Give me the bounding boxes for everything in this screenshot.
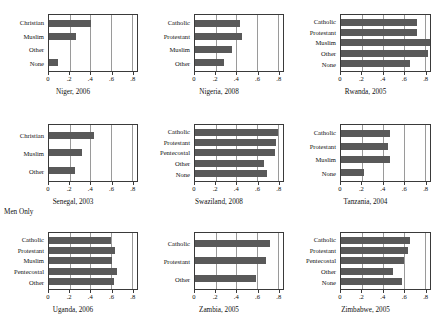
bar bbox=[341, 143, 388, 150]
category-label: None bbox=[292, 170, 338, 177]
bar bbox=[49, 132, 94, 139]
chart-panel: CatholicProtestantPentecostalOtherNone0.… bbox=[292, 218, 439, 328]
x-axis: 0.2.4.6.8 bbox=[48, 182, 138, 198]
chart-panel: CatholicProtestantPentecostalOtherNone0.… bbox=[146, 110, 292, 218]
plot-area bbox=[48, 124, 138, 182]
bar-row bbox=[195, 20, 283, 27]
bar bbox=[195, 170, 267, 177]
bar-row bbox=[341, 19, 430, 26]
x-axis-tick-label: 0 bbox=[46, 293, 49, 300]
bar bbox=[49, 247, 115, 254]
x-axis: 0.2.4.6.8 bbox=[194, 290, 284, 306]
x-axis-tick-label: 0 bbox=[338, 293, 341, 300]
x-axis-tick-label: 0 bbox=[192, 185, 195, 192]
bar-row bbox=[341, 247, 430, 254]
chart-panel: ChristianMuslimOther0.2.4.6.8Senegal, 20… bbox=[0, 110, 146, 218]
bar-row bbox=[195, 129, 283, 136]
bar-row bbox=[49, 237, 137, 244]
plot-area bbox=[48, 232, 138, 290]
chart-panel: CatholicProtestantMuslimOther0.2.4.6.8Ni… bbox=[146, 0, 292, 110]
x-axis: 0.2.4.6.8 bbox=[340, 182, 431, 198]
bar bbox=[341, 19, 417, 26]
panel-inner: CatholicProtestantMuslimNone0.2.4.6.8Tan… bbox=[292, 110, 439, 218]
bar bbox=[195, 46, 232, 53]
x-axis-tick-label: .4 bbox=[88, 185, 93, 192]
category-label: Christian bbox=[0, 19, 46, 26]
category-axis-labels: CatholicProtestantPentecostalOtherNone bbox=[146, 124, 192, 182]
x-axis-tick-label: .8 bbox=[276, 75, 281, 82]
category-label: Catholic bbox=[146, 240, 192, 247]
plot-box bbox=[194, 124, 284, 182]
plot-area bbox=[194, 232, 284, 290]
bar-row bbox=[341, 278, 430, 285]
category-axis-labels: CatholicProtestantOther bbox=[146, 232, 192, 290]
category-label: Muslim bbox=[0, 257, 46, 264]
x-axis: 0.2.4.6.8 bbox=[194, 182, 284, 198]
bar-row bbox=[341, 60, 430, 67]
bar bbox=[195, 240, 270, 247]
plot-area bbox=[194, 124, 284, 182]
panel-title: Zimbabwe, 2005 bbox=[292, 306, 439, 314]
x-axis: 0.2.4.6.8 bbox=[48, 72, 138, 88]
plot-area bbox=[340, 124, 431, 182]
category-axis-labels: CatholicProtestantMuslimNone bbox=[292, 124, 338, 182]
plot-box bbox=[340, 124, 431, 182]
bar bbox=[341, 50, 428, 57]
bar-row bbox=[341, 156, 430, 163]
category-label: Other bbox=[292, 268, 338, 275]
category-label: Protestant bbox=[146, 139, 192, 146]
bar bbox=[49, 33, 76, 40]
category-label: Pentecostal bbox=[146, 149, 192, 156]
bar-series bbox=[341, 15, 430, 71]
panel-title: Uganda, 2006 bbox=[0, 306, 146, 314]
bar bbox=[341, 29, 417, 36]
bar-row bbox=[341, 237, 430, 244]
x-axis-tick-label: .8 bbox=[423, 293, 428, 300]
category-label: Catholic bbox=[292, 236, 338, 243]
panel-inner: CatholicProtestantMuslimOther0.2.4.6.8Ni… bbox=[146, 0, 292, 110]
bar-row bbox=[195, 240, 283, 247]
small-multiples-chart-grid: ChristianMuslimOtherNone0.2.4.6.8Niger, … bbox=[0, 0, 439, 328]
bar-series bbox=[341, 125, 430, 181]
bar bbox=[49, 237, 111, 244]
x-axis: 0.2.4.6.8 bbox=[194, 72, 284, 88]
plot-area bbox=[340, 232, 431, 290]
bar bbox=[341, 156, 390, 163]
bar-row bbox=[195, 160, 283, 167]
panel-title: Rwanda, 2005 bbox=[292, 88, 439, 96]
category-label: None bbox=[0, 60, 46, 67]
category-label: Catholic bbox=[292, 18, 338, 25]
bar-row bbox=[49, 132, 137, 139]
panel-title: Nigeria, 2008 bbox=[146, 88, 292, 96]
bar bbox=[195, 20, 240, 27]
x-axis-tick-label: .8 bbox=[276, 293, 281, 300]
panel-inner: CatholicProtestantOther0.2.4.6.8Zambia, … bbox=[146, 218, 292, 328]
x-axis-tick-label: .4 bbox=[88, 75, 93, 82]
category-label: Other bbox=[146, 60, 192, 67]
plot-area bbox=[48, 14, 138, 72]
category-label: Protestant bbox=[0, 247, 46, 254]
category-label: Pentecostal bbox=[0, 268, 46, 275]
category-axis-labels: ChristianMuslimOtherNone bbox=[0, 14, 46, 72]
category-label: Catholic bbox=[0, 236, 46, 243]
bar-series bbox=[195, 233, 283, 289]
category-label: None bbox=[292, 279, 338, 286]
x-axis-tick-label: .6 bbox=[109, 293, 114, 300]
bar-row bbox=[49, 33, 137, 40]
bar-row bbox=[341, 39, 430, 46]
bar-row bbox=[341, 143, 430, 150]
bar bbox=[341, 39, 430, 46]
category-label: Muslim bbox=[0, 150, 46, 157]
category-axis-labels: CatholicProtestantPentecostalOtherNone bbox=[292, 232, 338, 290]
panel-title: Zambia, 2005 bbox=[146, 306, 292, 314]
panel-inner: ChristianMuslimOther0.2.4.6.8Senegal, 20… bbox=[0, 110, 146, 218]
bar-row bbox=[49, 20, 137, 27]
x-axis-tick-label: .8 bbox=[130, 293, 135, 300]
category-label: Protestant bbox=[292, 143, 338, 150]
panel-inner: CatholicProtestantPentecostalOtherNone0.… bbox=[292, 218, 439, 328]
x-axis-tick-label: .2 bbox=[359, 293, 364, 300]
panel-inner: CatholicProtestantPentecostalOtherNone0.… bbox=[146, 110, 292, 218]
x-axis-tick-label: .4 bbox=[88, 293, 93, 300]
plot-box bbox=[340, 14, 431, 72]
plot-area bbox=[340, 14, 431, 72]
